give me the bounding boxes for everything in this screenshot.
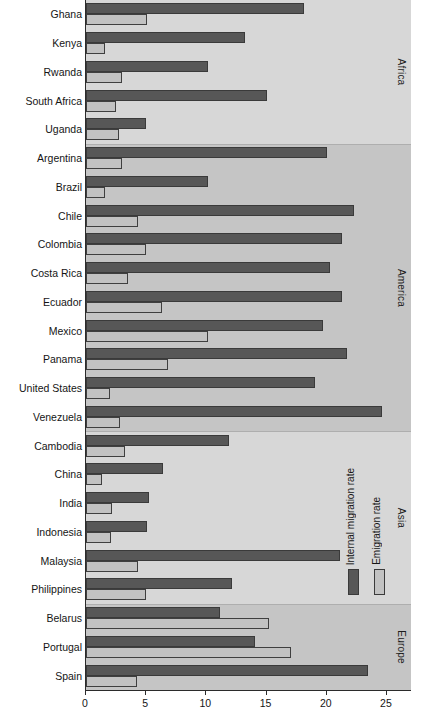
category-label-rwanda: Rwanda xyxy=(0,66,82,78)
category-label-colombia: Colombia xyxy=(0,238,82,250)
legend-swatch-emigration xyxy=(374,569,385,595)
bar-internal-indonesia xyxy=(86,521,147,532)
category-label-ghana: Ghana xyxy=(0,8,82,20)
legend-label-internal: Internal migration rate xyxy=(345,468,356,565)
x-tick-15 xyxy=(266,690,267,695)
bar-internal-cambodia xyxy=(86,435,229,446)
bar-emigration-malaysia xyxy=(86,561,138,572)
category-label-south-africa: South Africa xyxy=(0,95,82,107)
category-label-venezuela: Venezuela xyxy=(0,411,82,423)
chart-legend: Internal migration rateEmigration rate xyxy=(345,455,400,595)
bar-emigration-indonesia xyxy=(86,532,111,543)
region-separator xyxy=(86,144,411,145)
category-label-panama: Panama xyxy=(0,353,82,365)
bar-internal-kenya xyxy=(86,32,245,43)
x-tick-0 xyxy=(85,690,86,695)
category-label-ecuador: Ecuador xyxy=(0,296,82,308)
bar-emigration-ecuador xyxy=(86,302,162,313)
x-axis-line xyxy=(85,690,411,691)
bar-emigration-belarus xyxy=(86,618,269,629)
x-tick-label-10: 10 xyxy=(200,697,212,709)
bar-emigration-kenya xyxy=(86,43,105,54)
region-label-america: America xyxy=(385,268,407,306)
category-label-china: China xyxy=(0,468,82,480)
bar-emigration-portugal xyxy=(86,647,291,658)
category-label-malaysia: Malaysia xyxy=(0,555,82,567)
category-label-mexico: Mexico xyxy=(0,325,82,337)
bar-emigration-rwanda xyxy=(86,72,122,83)
bar-emigration-ghana xyxy=(86,14,147,25)
bar-emigration-venezuela xyxy=(86,417,120,428)
category-label-belarus: Belarus xyxy=(0,612,82,624)
bar-internal-argentina xyxy=(86,147,327,158)
category-label-spain: Spain xyxy=(0,670,82,682)
category-label-chile: Chile xyxy=(0,210,82,222)
bar-internal-costa-rica xyxy=(86,262,330,273)
x-tick-20 xyxy=(326,690,327,695)
category-label-philippines: Philippines xyxy=(0,583,82,595)
x-tick-label-5: 5 xyxy=(142,697,148,709)
bar-internal-ecuador xyxy=(86,291,342,302)
bar-emigration-china xyxy=(86,474,102,485)
category-label-kenya: Kenya xyxy=(0,37,82,49)
bar-emigration-panama xyxy=(86,359,168,370)
bar-internal-spain xyxy=(86,665,368,676)
category-label-portugal: Portugal xyxy=(0,641,82,653)
bar-emigration-philippines xyxy=(86,589,146,600)
bar-emigration-mexico xyxy=(86,331,208,342)
legend-entry-emigration-rate: Emigration rate xyxy=(371,455,395,595)
x-tick-10 xyxy=(205,690,206,695)
category-label-costa-rica: Costa Rica xyxy=(0,267,82,279)
category-label-uganda: Uganda xyxy=(0,123,82,135)
bar-internal-colombia xyxy=(86,233,342,244)
migration-rate-chart: AfricaAmericaAsiaEurope GhanaKenyaRwanda… xyxy=(0,0,435,719)
bar-emigration-colombia xyxy=(86,244,146,255)
region-separator xyxy=(86,604,411,605)
region-separator xyxy=(86,431,411,432)
bar-internal-mexico xyxy=(86,320,323,331)
bar-emigration-costa-rica xyxy=(86,273,128,284)
legend-label-emigration: Emigration rate xyxy=(371,497,382,565)
bar-internal-brazil xyxy=(86,176,208,187)
x-tick-label-15: 15 xyxy=(260,697,272,709)
bar-internal-philippines xyxy=(86,578,232,589)
legend-swatch-internal xyxy=(348,569,359,595)
bar-internal-rwanda xyxy=(86,61,208,72)
region-band-america xyxy=(86,144,411,432)
category-label-india: India xyxy=(0,497,82,509)
bar-internal-uganda xyxy=(86,118,146,129)
region-label-europe: Europe xyxy=(385,630,407,663)
x-tick-5 xyxy=(145,690,146,695)
bar-emigration-argentina xyxy=(86,158,122,169)
bar-emigration-india xyxy=(86,503,112,514)
bar-emigration-chile xyxy=(86,216,138,227)
bar-internal-china xyxy=(86,463,163,474)
x-tick-25 xyxy=(386,690,387,695)
bar-internal-ghana xyxy=(86,3,304,14)
bar-emigration-south-africa xyxy=(86,101,116,112)
bar-internal-malaysia xyxy=(86,550,340,561)
bar-emigration-brazil xyxy=(86,187,105,198)
bar-internal-south-africa xyxy=(86,90,267,101)
region-label-africa: Africa xyxy=(385,58,407,85)
bar-emigration-uganda xyxy=(86,129,119,140)
bar-internal-panama xyxy=(86,348,347,359)
bar-internal-chile xyxy=(86,205,354,216)
category-label-cambodia: Cambodia xyxy=(0,440,82,452)
category-label-indonesia: Indonesia xyxy=(0,526,82,538)
bar-internal-belarus xyxy=(86,607,220,618)
bar-internal-portugal xyxy=(86,636,255,647)
category-label-brazil: Brazil xyxy=(0,181,82,193)
bar-emigration-cambodia xyxy=(86,446,125,457)
x-tick-label-0: 0 xyxy=(82,697,88,709)
x-tick-label-20: 20 xyxy=(320,697,332,709)
bar-emigration-spain xyxy=(86,676,137,687)
category-axis-labels: GhanaKenyaRwandaSouth AfricaUgandaArgent… xyxy=(0,0,82,690)
category-label-united-states: United States xyxy=(0,382,82,394)
bar-internal-united-states xyxy=(86,377,315,388)
category-label-argentina: Argentina xyxy=(0,152,82,164)
bar-internal-venezuela xyxy=(86,406,382,417)
legend-entry-internal-migration-rate: Internal migration rate xyxy=(345,455,369,595)
bar-internal-india xyxy=(86,492,149,503)
bar-emigration-united-states xyxy=(86,388,110,399)
